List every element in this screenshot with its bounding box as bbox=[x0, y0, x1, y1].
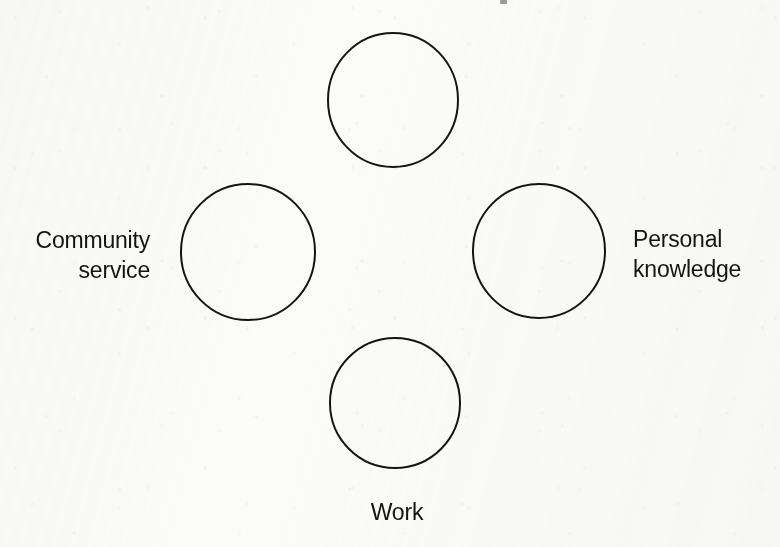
circle-node-personal-knowledge[interactable] bbox=[473, 184, 605, 318]
circle-label-community-service: Community service bbox=[35, 225, 150, 285]
circle-label-personal-knowledge: Personal knowledge bbox=[633, 224, 741, 284]
figure-canvas: Community service Personal knowledge Wor… bbox=[0, 0, 780, 547]
circle-node-community-service[interactable] bbox=[181, 184, 315, 320]
circle-node-work[interactable] bbox=[330, 338, 460, 468]
circle-node-top[interactable] bbox=[328, 33, 458, 167]
circle-label-work: Work bbox=[14, 497, 780, 527]
